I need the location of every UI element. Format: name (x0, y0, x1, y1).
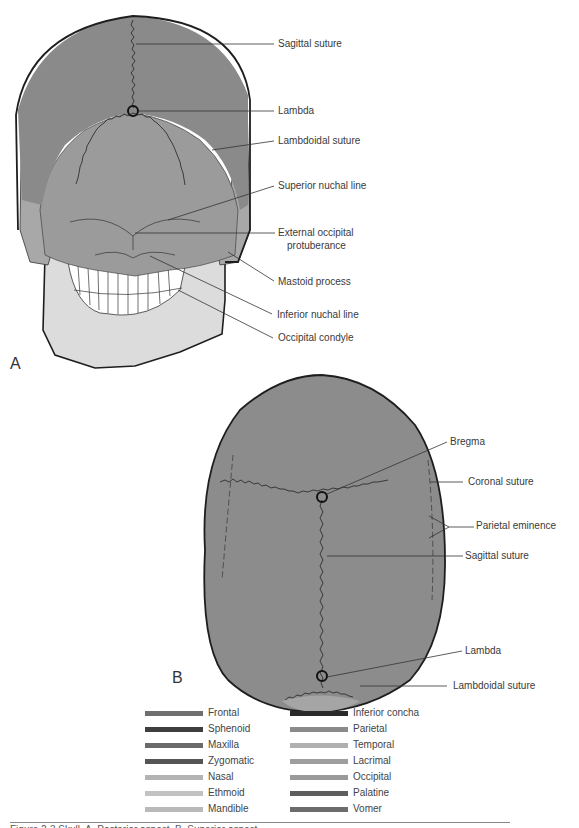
legend-swatch (290, 791, 348, 796)
legend-swatch (145, 711, 203, 716)
label-lambda-a: Lambda (278, 105, 314, 117)
skull-illustrations (0, 0, 579, 828)
legend-swatch (145, 759, 203, 764)
label-coronal-suture: Coronal suture (468, 476, 534, 488)
legend-swatch (145, 727, 203, 732)
legend-swatch (290, 727, 348, 732)
legend-swatch (290, 759, 348, 764)
legend-swatch (290, 807, 348, 812)
label-inferior-nuchal-line: Inferior nuchal line (277, 309, 359, 321)
superior-skull (204, 375, 474, 712)
label-bregma: Bregma (450, 436, 485, 448)
legend-swatch (145, 807, 203, 812)
legend-swatch (145, 775, 203, 780)
legend-swatch (290, 743, 348, 748)
caption-divider (10, 822, 510, 823)
label-sagittal-suture-a: Sagittal suture (278, 38, 342, 50)
legend-swatch (145, 743, 203, 748)
label-lambdoidal-suture-a: Lambdoidal suture (278, 135, 360, 147)
legend-swatch (290, 711, 348, 716)
label-lambda-b: Lambda (465, 645, 501, 657)
label-superior-nuchal-line: Superior nuchal line (278, 180, 366, 192)
label-parietal-eminence: Parietal eminence (476, 520, 556, 532)
panel-letter-b: B (172, 669, 183, 687)
panel-letter-a: A (10, 355, 21, 373)
legend-swatch (145, 791, 203, 796)
label-external-occipital: External occipital (278, 227, 354, 239)
label-lambdoidal-suture-b: Lambdoidal suture (453, 680, 535, 692)
figure: A Sagittal suture Lambda Lambdoidal sutu… (0, 0, 579, 828)
figure-caption: Figure 2-3 Skull. A, Posterior aspect. B… (10, 824, 260, 828)
label-mastoid-process: Mastoid process (278, 276, 351, 288)
posterior-skull (16, 16, 275, 368)
label-occipital-condyle: Occipital condyle (278, 332, 354, 344)
label-sagittal-suture-b: Sagittal suture (465, 550, 529, 562)
label-protuberance: protuberance (287, 240, 346, 252)
legend-swatch (290, 775, 348, 780)
